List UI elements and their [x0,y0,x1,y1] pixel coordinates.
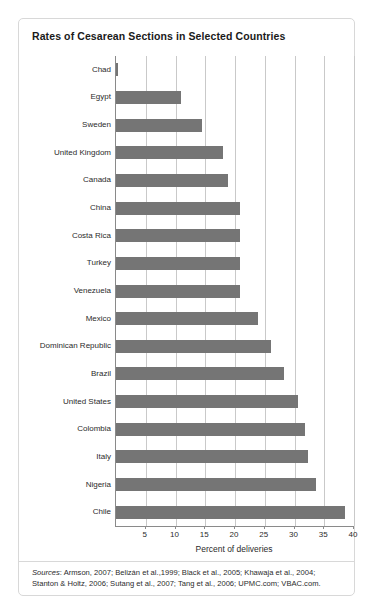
bar-row [116,119,354,132]
x-tick-mark [145,526,146,529]
bar [116,63,118,76]
x-tick-label: 10 [170,530,179,539]
plot-wrapper: ChadEgyptSwedenUnited KingdomCanadaChina… [19,56,356,546]
bar-row [116,174,354,187]
bar [116,340,271,353]
bar-row [116,423,354,436]
chart-figure: Rates of Cesarean Sections in Selected C… [18,18,355,596]
y-axis-label: Turkey [87,259,111,267]
x-tick-label: 5 [143,530,147,539]
x-tick-label: 40 [349,530,358,539]
y-axis-label: Venezuela [74,287,111,295]
bar-row [116,450,354,463]
gridline [354,56,355,526]
bar [116,367,284,380]
bar-row [116,202,354,215]
bar [116,506,345,519]
bar [116,119,202,132]
bar-row [116,257,354,270]
sources-label: Sources [32,568,60,577]
y-axis-label: United States [63,398,111,406]
y-axis-label: Sweden [82,121,111,129]
y-axis-label: United Kingdom [54,149,111,157]
bar [116,202,240,215]
chart-title: Rates of Cesarean Sections in Selected C… [32,30,285,42]
y-axis-category-labels: ChadEgyptSwedenUnited KingdomCanadaChina… [19,56,111,526]
bar [116,91,181,104]
bar [116,257,240,270]
bar [116,229,240,242]
bar-row [116,478,354,491]
y-axis-label: Chad [92,66,111,74]
bar-row [116,367,354,380]
x-tick-label: 30 [289,530,298,539]
x-tick-label: 15 [200,530,209,539]
x-tick-label: 25 [259,530,268,539]
bar [116,312,258,325]
bar [116,285,240,298]
bar-row [116,63,354,76]
source-divider [19,561,354,562]
plot-area [115,56,354,527]
sources-note: Sources: Armson, 2007; Belizán et al.,19… [32,567,343,589]
x-tick-mark [204,526,205,529]
bar-row [116,285,354,298]
y-axis-label: Egypt [91,93,111,101]
bar-row [116,506,354,519]
x-tick-mark [294,526,295,529]
bar [116,146,223,159]
bar [116,423,305,436]
y-axis-label: Costa Rica [72,232,111,240]
y-axis-label: Italy [96,453,111,461]
x-tick-mark [264,526,265,529]
x-tick-label: 35 [319,530,328,539]
x-tick-mark [234,526,235,529]
bar-row [116,395,354,408]
sources-body: : Armson, 2007; Belizán et al.,1999; Bla… [32,568,321,588]
x-tick-mark [353,526,354,529]
y-axis-label: China [90,204,111,212]
x-axis-title: Percent of deliveries [115,544,353,554]
bar-row [116,91,354,104]
x-tick-mark [323,526,324,529]
bar-series [116,56,354,526]
bar [116,478,316,491]
x-tick-label: 20 [230,530,239,539]
bar [116,450,308,463]
bar [116,395,298,408]
bar [116,174,228,187]
bar-row [116,312,354,325]
bar-row [116,146,354,159]
y-axis-label: Colombia [77,425,111,433]
y-axis-label: Mexico [86,315,111,323]
bar-row [116,229,354,242]
x-tick-mark [175,526,176,529]
y-axis-label: Dominican Republic [40,342,111,350]
y-axis-label: Chile [93,508,111,516]
y-axis-label: Canada [83,176,111,184]
y-axis-label: Nigeria [86,481,111,489]
y-axis-label: Brazil [91,370,111,378]
bar-row [116,340,354,353]
